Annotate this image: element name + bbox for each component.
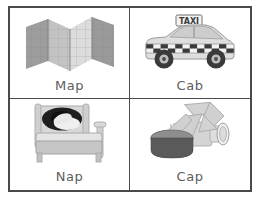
card-label-map: Map xyxy=(55,79,84,92)
card-label-cab: Cab xyxy=(177,79,204,92)
card-label-cap: Cap xyxy=(177,170,204,183)
card-map[interactable]: Map xyxy=(10,8,130,99)
card-sheet: Map TAXI xyxy=(0,0,260,200)
svg-text:TAXI: TAXI xyxy=(179,17,199,26)
taxi-cab-icon: TAXI xyxy=(130,10,250,78)
folded-map-icon xyxy=(10,10,129,78)
card-label-nap: Nap xyxy=(56,170,83,183)
card-cap[interactable]: Cap xyxy=(130,99,250,190)
card-grid: Map TAXI xyxy=(8,6,252,192)
card-nap[interactable]: Nap xyxy=(10,99,130,190)
bottle-cap-arrow-icon xyxy=(130,101,250,169)
card-cab[interactable]: TAXI xyxy=(130,8,250,99)
bed-sleeping-icon xyxy=(10,101,129,169)
